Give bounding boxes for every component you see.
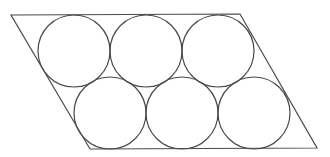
circle-top-1 — [38, 15, 110, 87]
diagram-canvas — [0, 0, 330, 157]
parallelogram-circles-diagram — [0, 0, 330, 157]
circle-bottom-3 — [218, 77, 290, 149]
circle-bottom-2 — [146, 77, 218, 149]
circle-top-2 — [110, 15, 182, 87]
circle-top-3 — [182, 15, 254, 87]
circle-bottom-1 — [74, 77, 146, 149]
